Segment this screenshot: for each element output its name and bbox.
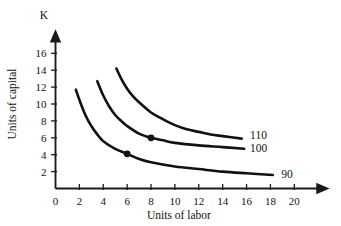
point-on-100 bbox=[148, 134, 155, 141]
y-axis-title: Units of capital bbox=[6, 69, 19, 140]
isoquant-chart: 246810121416 02468101214161820 90100110 … bbox=[0, 0, 341, 226]
x-axis-tick-label: 4 bbox=[101, 195, 107, 207]
x-axis-tick-label: 0 bbox=[53, 195, 59, 207]
x-axis-tick-label: 2 bbox=[77, 195, 83, 207]
y-axis-tick-label: 4 bbox=[41, 149, 47, 161]
curve-label-110: 110 bbox=[250, 129, 267, 141]
y-axis-tick-label: 8 bbox=[41, 115, 47, 127]
x-axis-tick-label: 16 bbox=[241, 195, 253, 207]
x-axis-tick-label: 10 bbox=[169, 195, 181, 207]
x-axis-tick-label: 12 bbox=[193, 195, 204, 207]
x-axis-tick-label: 14 bbox=[217, 195, 229, 207]
y-axis-tick-label: 14 bbox=[36, 64, 48, 76]
y-axis-tick-label: 2 bbox=[41, 166, 47, 178]
curve-label-90: 90 bbox=[281, 168, 293, 180]
y-axis-tick-label: 12 bbox=[36, 81, 47, 93]
x-axis-tick-label: 6 bbox=[124, 195, 130, 207]
curve-label-100: 100 bbox=[250, 142, 268, 154]
y-axis-symbol-k: K bbox=[40, 9, 49, 21]
x-axis-tick-label: 20 bbox=[289, 195, 301, 207]
chart-background bbox=[0, 0, 341, 226]
point-on-90 bbox=[124, 150, 131, 157]
y-axis-tick-label: 6 bbox=[41, 132, 47, 144]
x-axis-tick-label: 8 bbox=[148, 195, 154, 207]
chart-canvas: 246810121416 02468101214161820 90100110 … bbox=[0, 0, 341, 226]
x-axis-tick-label: 18 bbox=[265, 195, 277, 207]
y-axis-tick-label: 16 bbox=[36, 47, 48, 59]
x-axis-title: Units of labor bbox=[147, 209, 211, 221]
y-axis-tick-label: 10 bbox=[36, 98, 48, 110]
